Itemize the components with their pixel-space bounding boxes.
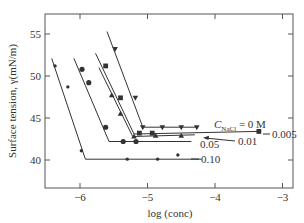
diamond-marker xyxy=(126,157,129,160)
x-axis-label: log (conc) xyxy=(148,207,193,220)
square-marker xyxy=(137,131,142,136)
diamond-marker xyxy=(53,64,56,67)
series-markers xyxy=(53,47,261,161)
y-tick-label: 45 xyxy=(30,112,42,124)
triangle-down-marker xyxy=(194,125,200,130)
series-label-0005M: 0.005 xyxy=(272,128,297,140)
diamond-marker xyxy=(66,85,69,88)
circle-marker xyxy=(103,125,108,130)
x-tick-label: −3 xyxy=(277,191,289,203)
circle-marker xyxy=(121,139,126,144)
square-marker xyxy=(103,64,108,69)
y-tick-label: 40 xyxy=(30,154,42,166)
y-axis-label: Surface tension, γ(mN/m) xyxy=(6,44,19,158)
square-marker xyxy=(150,131,155,136)
series-label-001M: 0.01 xyxy=(238,135,257,147)
triangle-up-marker xyxy=(118,111,124,116)
x-tick-label: −4 xyxy=(209,191,221,203)
triangle-down-marker xyxy=(160,125,166,130)
circle-marker xyxy=(79,67,84,72)
diamond-marker xyxy=(80,149,83,152)
triangle-down-marker xyxy=(133,96,139,101)
x-axis-ticks: −6−5−4−3 xyxy=(74,14,289,203)
series-label-010M: 0.10 xyxy=(201,153,221,165)
triangle-down-marker xyxy=(140,125,146,130)
series-line xyxy=(52,58,202,159)
y-tick-label: 50 xyxy=(30,70,42,82)
x-tick-label: −6 xyxy=(74,191,86,203)
y-tick-label: 55 xyxy=(30,28,42,40)
square-marker xyxy=(118,95,123,100)
triangle-up-marker xyxy=(109,92,115,97)
diamond-marker xyxy=(156,157,159,160)
surface-tension-chart: −6−5−4−3 40455055 log (conc) Surface ten… xyxy=(0,0,304,223)
circle-marker xyxy=(86,80,91,85)
triangle-down-marker xyxy=(178,125,184,130)
x-tick-label: −5 xyxy=(142,191,154,203)
diamond-marker xyxy=(176,153,179,156)
triangle-down-marker xyxy=(112,47,118,52)
plot-frame xyxy=(45,14,293,188)
series-label-005M: 0.05 xyxy=(200,138,220,150)
circle-marker xyxy=(133,139,138,144)
